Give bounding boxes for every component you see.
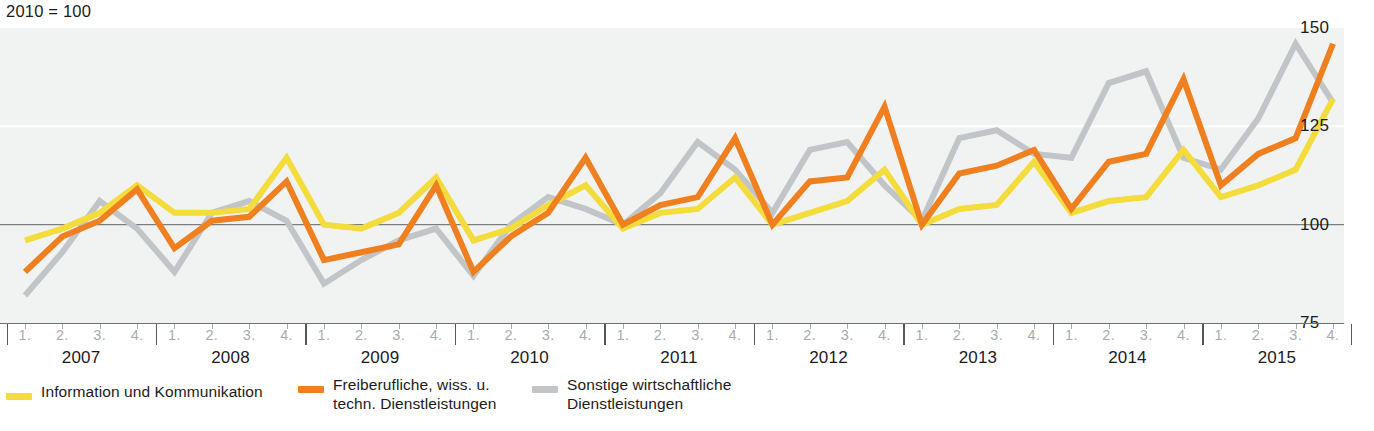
y-tick-label-125: 125 (1300, 117, 1329, 134)
series-line-1 (25, 44, 1333, 272)
year-separator (1202, 324, 1203, 345)
x-axis-year-labels: 200720082009201020112012201320142015 (0, 348, 1344, 372)
quarter-label: 1. (1206, 327, 1236, 343)
index-note: 2010 = 100 (6, 2, 91, 21)
quarter-label: 2. (496, 327, 526, 343)
legend-label: Freiberufliche, wiss. u. techn. Dienstle… (333, 376, 496, 414)
year-label-2015: 2015 (1232, 348, 1322, 368)
quarter-label: 1. (10, 327, 40, 343)
year-label-2007: 2007 (36, 348, 126, 368)
quarter-label: 1. (907, 327, 937, 343)
quarter-label: 2. (645, 327, 675, 343)
plot-area (0, 28, 1344, 323)
y-tick-label-100: 100 (1300, 216, 1329, 233)
quarter-label: 3. (832, 327, 862, 343)
legend-swatch-icon (298, 386, 324, 393)
year-separator (156, 324, 157, 345)
legend-label: Information und Kommunikation (41, 383, 263, 402)
quarter-label: 3. (1131, 327, 1161, 343)
legend-item-2[interactable]: Sonstige wirtschaftliche Dienstleistunge… (532, 376, 731, 414)
quarter-label: 2. (944, 327, 974, 343)
quarter-label: 4. (421, 327, 451, 343)
year-separator (754, 324, 755, 345)
year-label-2011: 2011 (634, 348, 724, 368)
year-label-2010: 2010 (485, 348, 575, 368)
year-separator (1351, 324, 1352, 345)
series-line-2 (25, 44, 1333, 296)
quarter-label: 2. (346, 327, 376, 343)
chart-legend: Information und KommunikationFreiberufli… (0, 381, 1374, 431)
legend-item-1[interactable]: Freiberufliche, wiss. u. techn. Dienstle… (298, 376, 496, 414)
quarter-label: 4. (870, 327, 900, 343)
quarter-label: 4. (1169, 327, 1199, 343)
year-label-2013: 2013 (933, 348, 1023, 368)
quarter-label: 1. (159, 327, 189, 343)
year-label-2012: 2012 (783, 348, 873, 368)
quarter-label: 3. (85, 327, 115, 343)
year-separator (305, 324, 306, 345)
quarter-label: 1. (757, 327, 787, 343)
quarter-label: 4. (1318, 327, 1348, 343)
quarter-label: 1. (1056, 327, 1086, 343)
legend-swatch-icon (532, 386, 558, 393)
quarter-label: 3. (533, 327, 563, 343)
y-tick-label-150: 150 (1300, 19, 1329, 36)
year-label-2014: 2014 (1082, 348, 1172, 368)
quarter-label: 3. (234, 327, 264, 343)
year-label-2009: 2009 (335, 348, 425, 368)
quarter-label: 2. (1094, 327, 1124, 343)
year-separator (7, 324, 8, 345)
quarter-label: 2. (795, 327, 825, 343)
quarter-label: 4. (1019, 327, 1049, 343)
legend-item-0[interactable]: Information und Kommunikation (6, 383, 263, 402)
year-separator (1053, 324, 1054, 345)
year-separator (604, 324, 605, 345)
quarter-label: 3. (1281, 327, 1311, 343)
quarter-label: 3. (384, 327, 414, 343)
quarter-label: 3. (683, 327, 713, 343)
y-axis-labels: 15012510075 (1300, 28, 1374, 323)
quarter-label: 4. (720, 327, 750, 343)
chart-lines (0, 28, 1344, 323)
quarter-label: 1. (608, 327, 638, 343)
year-label-2008: 2008 (186, 348, 276, 368)
quarter-label: 4. (122, 327, 152, 343)
quarter-label: 4. (571, 327, 601, 343)
year-separator (455, 324, 456, 345)
x-axis-ticks: 1.2.3.4.1.2.3.4.1.2.3.4.1.2.3.4.1.2.3.4.… (0, 324, 1344, 350)
quarter-label: 2. (47, 327, 77, 343)
quarter-label: 2. (1243, 327, 1273, 343)
quarter-label: 2. (197, 327, 227, 343)
chart-page: 2010 = 100 15012510075 1.2.3.4.1.2.3.4.1… (0, 0, 1374, 431)
quarter-label: 4. (272, 327, 302, 343)
quarter-label: 1. (309, 327, 339, 343)
quarter-label: 3. (982, 327, 1012, 343)
legend-swatch-icon (6, 393, 32, 400)
quarter-label: 1. (458, 327, 488, 343)
legend-label: Sonstige wirtschaftliche Dienstleistunge… (567, 376, 731, 414)
year-separator (903, 324, 904, 345)
